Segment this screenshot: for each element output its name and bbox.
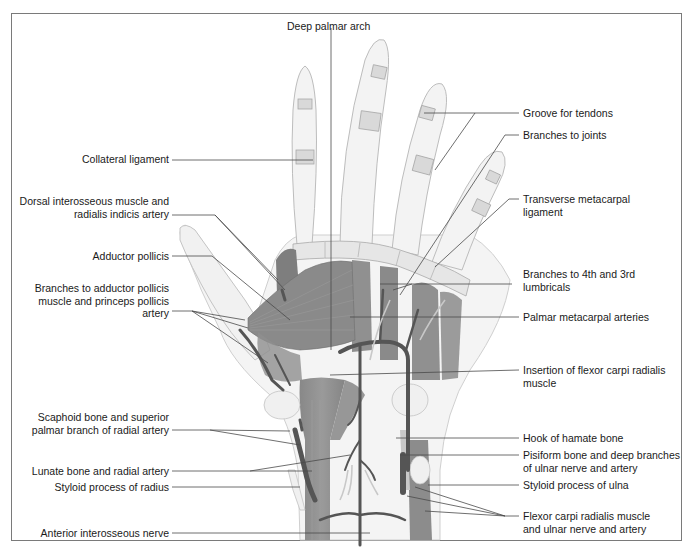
label-styloid-process-ulna: Styloid process of ulna	[523, 479, 629, 492]
index-pip-joint	[296, 150, 314, 164]
label-insertion-flexor-carpi-radialis: Insertion of flexor carpi radialis muscl…	[523, 364, 665, 389]
middle-pip-joint	[359, 111, 381, 132]
label-collateral-ligament: Collateral ligament	[82, 153, 169, 166]
label-transverse-metacarpal-ligament: Transverse metacarpal ligament	[523, 193, 630, 218]
pisiform-bone	[410, 456, 430, 484]
label-hook-of-hamate: Hook of hamate bone	[523, 432, 623, 445]
label-pisiform-bone: Pisiform bone and deep branches of ulnar…	[523, 449, 680, 474]
label-styloid-process-radius: Styloid process of radius	[55, 481, 169, 494]
scaphoid-bone	[264, 391, 300, 419]
label-dorsal-interosseous: Dorsal interosseous muscle and radialis …	[20, 195, 169, 220]
label-branches-adductor-pollicis: Branches to adductor pollicis muscle and…	[35, 282, 169, 320]
middle-dip-joint	[371, 65, 387, 80]
index-dip-joint	[298, 99, 312, 109]
label-scaphoid-bone: Scaphoid bone and superior palmar branch…	[32, 411, 169, 436]
label-adductor-pollicis: Adductor pollicis	[93, 250, 169, 263]
label-flexor-carpi-radialis-ulnar: Flexor carpi radialis muscle and ulnar n…	[523, 510, 650, 535]
label-branches-to-joints: Branches to joints	[523, 129, 606, 142]
label-groove-for-tendons: Groove for tendons	[523, 107, 613, 120]
label-anterior-interosseous-nerve: Anterior interosseous nerve	[41, 527, 169, 540]
label-deep-palmar-arch: Deep palmar arch	[287, 20, 370, 33]
label-palmar-metacarpal-arteries: Palmar metacarpal arteries	[523, 311, 649, 324]
adductor-pollicis-muscle	[248, 261, 355, 350]
little-finger	[432, 151, 505, 270]
label-branches-to-lumbricals: Branches to 4th and 3rd lumbricals	[523, 268, 635, 293]
label-lunate-bone: Lunate bone and radial artery	[32, 465, 169, 478]
